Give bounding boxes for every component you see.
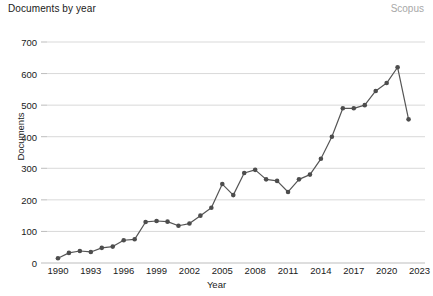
data-point[interactable] (99, 246, 104, 251)
data-point[interactable] (165, 219, 170, 224)
data-point[interactable] (67, 251, 72, 256)
gridlines (47, 42, 425, 231)
data-point[interactable] (176, 223, 181, 228)
y-tick-label: 100 (3, 226, 37, 237)
data-point[interactable] (132, 237, 137, 242)
data-point[interactable] (242, 171, 247, 176)
data-point[interactable] (319, 157, 324, 162)
data-point[interactable] (220, 182, 225, 187)
documents-by-year-chart: Documents by year Scopus Documents Year … (0, 0, 433, 296)
data-point[interactable] (143, 220, 148, 225)
data-point[interactable] (275, 179, 280, 184)
y-tick-label: 500 (3, 100, 37, 111)
data-point[interactable] (384, 81, 389, 86)
data-point[interactable] (351, 106, 356, 111)
axis-lines (41, 42, 425, 263)
x-axis-title: Year (0, 279, 433, 290)
data-point[interactable] (187, 221, 192, 226)
data-point[interactable] (89, 250, 94, 255)
x-tick-label: 2023 (400, 265, 433, 276)
data-point[interactable] (154, 219, 159, 224)
y-tick-label: 300 (3, 163, 37, 174)
data-point[interactable] (330, 134, 335, 139)
data-point[interactable] (78, 249, 83, 254)
series-line-documents (58, 67, 409, 258)
data-point[interactable] (406, 117, 411, 122)
data-point[interactable] (373, 89, 378, 94)
data-point[interactable] (56, 256, 61, 261)
data-point[interactable] (362, 103, 367, 108)
y-tick-label: 600 (3, 68, 37, 79)
data-point[interactable] (286, 190, 291, 195)
y-tick-label: 700 (3, 37, 37, 48)
data-point[interactable] (231, 193, 236, 198)
y-tick-label: 200 (3, 194, 37, 205)
data-point[interactable] (395, 65, 400, 70)
data-point[interactable] (297, 177, 302, 182)
data-point[interactable] (110, 244, 115, 249)
data-point[interactable] (308, 172, 313, 177)
data-point[interactable] (264, 177, 269, 182)
data-point[interactable] (198, 213, 203, 218)
data-point[interactable] (253, 168, 258, 173)
data-point[interactable] (209, 205, 214, 210)
y-tick-label: 400 (3, 131, 37, 142)
data-point[interactable] (121, 238, 126, 243)
plot-area: Documents Year 0100200300400500600700 19… (0, 0, 433, 296)
y-tick-label: 0 (3, 258, 37, 269)
chart-canvas (0, 0, 433, 296)
data-point[interactable] (341, 106, 346, 111)
